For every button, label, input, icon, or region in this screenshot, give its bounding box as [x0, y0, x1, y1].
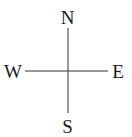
east-label: E — [112, 62, 124, 81]
south-label: S — [62, 117, 73, 136]
north-label: N — [61, 8, 75, 27]
compass-rose: N W E S — [0, 0, 132, 137]
west-label: W — [4, 62, 22, 81]
